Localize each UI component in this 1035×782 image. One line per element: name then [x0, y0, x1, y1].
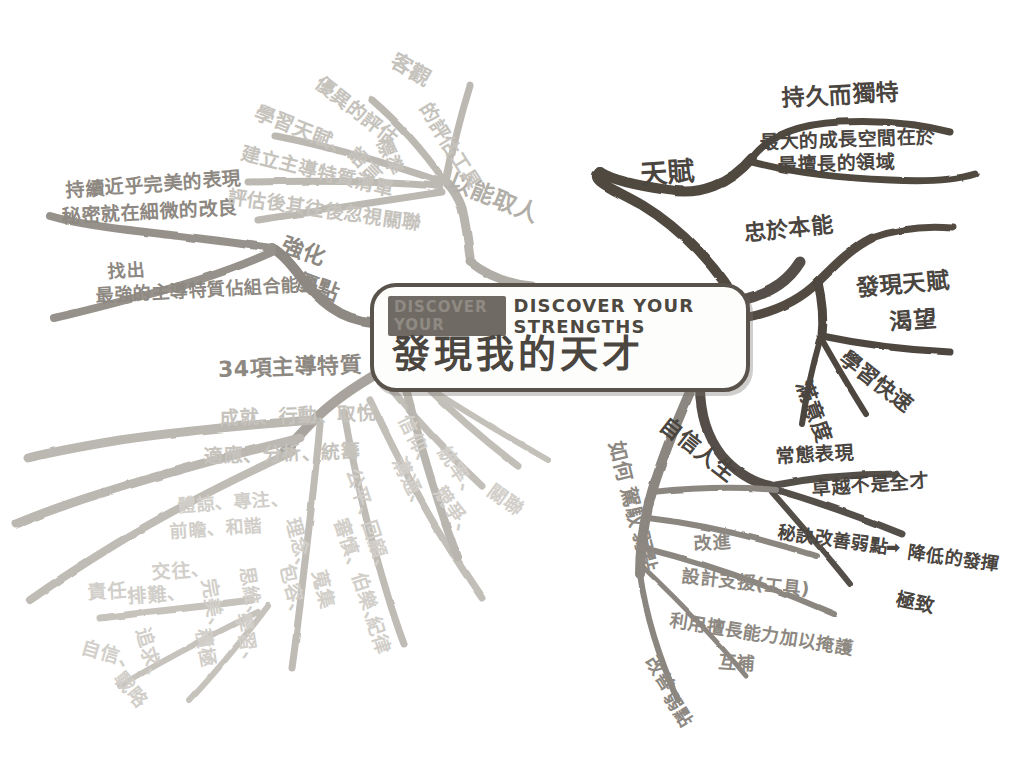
mindmap-canvas: DISCOVER YOUR DISCOVER YOUR STRENGTHS 發現… — [0, 0, 1035, 782]
arrow-icon: ➡ — [886, 538, 901, 557]
central-chinese-title: 發現我的天才 — [392, 323, 644, 378]
branch-label-talent[interactable]: 天賦 — [639, 156, 696, 190]
node-growth-room-line2[interactable]: 最擅長的領域 — [778, 151, 896, 176]
node-complement[interactable]: 互補 — [717, 652, 755, 675]
node-find-out-1[interactable]: 找出 — [107, 259, 145, 282]
node-34-themes[interactable]: 34項主導特質 — [218, 353, 363, 383]
central-node[interactable]: DISCOVER YOUR DISCOVER YOUR STRENGTHS 發現… — [370, 283, 750, 392]
trait-social[interactable]: 交往、 — [151, 558, 211, 583]
trait-responsibility[interactable]: 責任、 — [87, 578, 147, 603]
node-normal-performance[interactable]: 常態表現 — [775, 442, 854, 467]
node-improve[interactable]: 改進 — [693, 531, 731, 554]
node-desire[interactable]: 渴望 — [889, 307, 938, 336]
